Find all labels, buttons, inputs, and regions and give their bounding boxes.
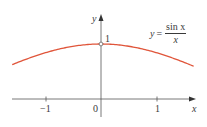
x-tick-label-neg1: −1 — [40, 104, 51, 114]
open-point-marker — [99, 42, 103, 46]
y-axis-arrow-icon — [99, 14, 104, 21]
annotation-numerator: sin x — [165, 22, 186, 34]
annotation-equals: = — [156, 28, 162, 39]
sinx-over-x-curve — [12, 44, 193, 66]
annotation-lhs: y — [150, 28, 154, 39]
function-annotation: y = sin x x — [150, 22, 186, 45]
x-tick-label-0: 0 — [93, 104, 98, 114]
annotation-denominator: x — [173, 34, 177, 45]
x-axis-arrow-icon — [189, 97, 196, 102]
y-tick-label-1: 1 — [105, 34, 110, 44]
x-axis-label: x — [192, 104, 196, 114]
annotation-fraction: sin x x — [165, 22, 186, 45]
x-tick-label-1: 1 — [155, 104, 160, 114]
chart-canvas — [0, 0, 207, 127]
y-axis-label: y — [92, 14, 96, 24]
